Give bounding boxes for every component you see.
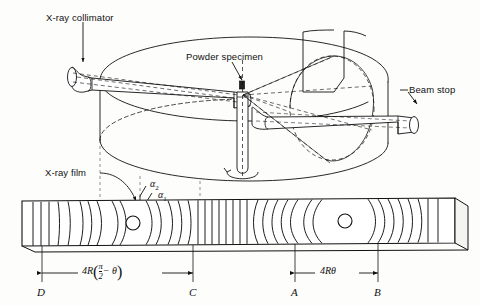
camera-notch [303, 30, 366, 92]
leader-specimen [232, 62, 242, 80]
dimension-right-expression: 4Rθ [320, 265, 336, 276]
point-label-B: B [374, 286, 381, 298]
dim-left-suffix: − θ [103, 265, 117, 276]
film-cylinder-inside [290, 56, 374, 161]
beam-stop-tube [252, 107, 419, 134]
xray-film-strip [22, 198, 468, 252]
alpha1-subscript: 1 [163, 195, 167, 203]
diffraction-cone-edges [243, 56, 334, 163]
point-label-D: D [37, 286, 45, 298]
film-hole-right [338, 214, 352, 228]
dimension-left-expression: 4R(π2− θ) [82, 262, 122, 281]
paren-close: ) [117, 263, 122, 280]
collimator-tube [68, 67, 252, 108]
point-label-C: C [189, 286, 196, 298]
dim-left-prefix: 4R [82, 265, 93, 276]
diffraction-cone-rays [243, 58, 372, 160]
point-label-A: A [291, 286, 298, 298]
label-xray-film: X-ray film [45, 167, 86, 178]
leader-lines [83, 22, 417, 201]
film-hole-left [126, 216, 140, 230]
figure-canvas: X-ray collimator Powder specimen Beam st… [0, 0, 480, 306]
diagram-svg [0, 0, 480, 306]
label-alpha1: α1 [158, 189, 167, 203]
leader-film [100, 173, 136, 201]
leader-alpha2 [140, 186, 146, 196]
label-xray-collimator: X-ray collimator [46, 12, 114, 23]
label-beam-stop: Beam stop [409, 84, 455, 95]
label-powder-specimen: Powder specimen [186, 51, 263, 62]
